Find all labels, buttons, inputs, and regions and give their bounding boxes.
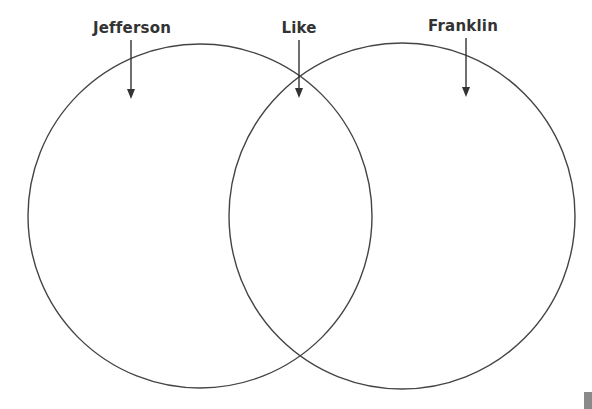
like-label: Like: [281, 19, 316, 37]
corner-mark: [584, 392, 592, 409]
venn-diagram: [0, 0, 592, 409]
franklin-circle: [229, 43, 575, 389]
like-arrow-icon: [295, 40, 303, 98]
jefferson-circle: [28, 44, 372, 388]
jefferson-arrow-icon: [127, 40, 135, 99]
franklin-arrow-icon: [462, 38, 470, 97]
jefferson-label: Jefferson: [93, 19, 171, 37]
franklin-label: Franklin: [428, 17, 498, 35]
